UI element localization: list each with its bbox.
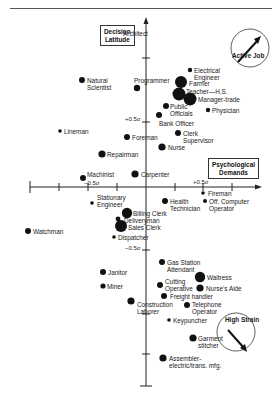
x-neg-tick-label: −0.5σ — [84, 180, 100, 186]
point-label: Miner — [107, 283, 123, 290]
point-label: Clerk Supervisor — [183, 130, 214, 144]
point-label: Janitor — [108, 269, 127, 276]
point-label: Sales Clerk — [128, 224, 161, 231]
point-label: Garment stitcher — [198, 335, 223, 349]
point-label: Manager-trade — [198, 96, 240, 103]
point-label: Natural Scientist — [87, 77, 111, 91]
point-label: Electrical Engineer — [194, 67, 220, 81]
y-axis-arrow-icon — [144, 17, 149, 24]
point-label: Gas Station Attendant — [167, 259, 200, 273]
point-label: Telephone Operator — [192, 301, 222, 315]
point-label: Construction Laborer — [137, 301, 173, 315]
point-label: Programmer — [134, 77, 170, 84]
point-label: Lineman — [64, 128, 89, 135]
y-pos-tick-label: +0.5σ — [125, 116, 141, 122]
point-label: Off. Computer Operator — [209, 198, 249, 212]
point-label: Fireman — [208, 190, 231, 197]
point-label: Dispatcher — [118, 234, 149, 241]
y-neg-tick-label: −0.5σ — [125, 245, 141, 251]
point-label: Waitress — [207, 274, 232, 281]
x-axis-arrow-icon — [255, 185, 262, 190]
point-label: Bank Officer — [159, 120, 194, 127]
point-label: Carpenter — [141, 171, 169, 178]
point-label: Repairman — [107, 151, 138, 158]
point-label: Assembler- electric/trans. mfg. — [169, 355, 221, 369]
high-strain-label: High Strain — [225, 316, 259, 323]
point-label: Watchman — [33, 228, 63, 235]
point-label: Physician — [212, 107, 239, 114]
x-pos-tick-label: +0.5σ — [193, 179, 209, 185]
point-label: Stationary Engineer — [97, 194, 126, 208]
point-label: Architect — [123, 30, 148, 37]
point-label: Deliveryman — [124, 217, 160, 224]
point-label: Public Officials — [170, 103, 193, 117]
point-label: Foreman — [132, 134, 158, 141]
active-job-label: Active Job — [232, 52, 264, 59]
point-label: Cutting Operative — [165, 278, 193, 292]
point-label: Farmer — [189, 80, 210, 87]
point-label: Machinist — [87, 171, 114, 178]
point-label: Health Technician — [170, 198, 200, 212]
point-label: Nurse — [168, 144, 185, 151]
point-label: Nurse's Aide — [206, 285, 242, 292]
point-label: Freight handler — [170, 293, 213, 300]
point-label: Billing Clerk — [133, 210, 167, 217]
psychological-demands-box: Psychological Demands — [208, 158, 259, 179]
point-label: Teacher—H.S. — [186, 88, 228, 95]
point-label: Keypuncher — [173, 317, 207, 324]
